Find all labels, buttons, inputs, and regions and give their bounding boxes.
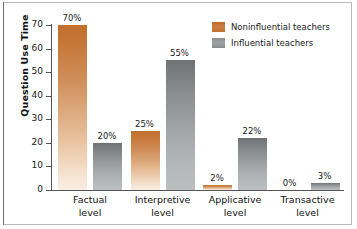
chart-figure: Question Use Time 010203040506070 70%20%… (0, 0, 357, 229)
legend-swatch-icon-influential (212, 38, 225, 48)
bar-value-label: 55% (160, 49, 200, 58)
x-tick-label-line: Transactive (265, 194, 351, 207)
x-tick-label: Transactivelevel (265, 194, 351, 219)
bar-orange[interactable] (203, 185, 232, 190)
bar-gray[interactable] (311, 183, 340, 190)
y-tick-mark (46, 49, 51, 50)
y-tick-mark (46, 72, 51, 73)
legend-swatch-icon-noninfluential (212, 22, 225, 32)
y-tick-label: 50 (21, 67, 43, 76)
bar-value-label: 22% (232, 127, 272, 136)
bar-value-label: 70% (52, 14, 92, 23)
y-tick-label: 30 (21, 114, 43, 123)
x-axis-line (51, 190, 344, 191)
bar-gray[interactable] (93, 143, 122, 190)
legend-label-noninfluential: Noninfluential teachers (231, 22, 330, 32)
bar-value-label: 20% (87, 132, 127, 141)
bar-group: 70%20% (52, 25, 128, 190)
legend-item-influential[interactable]: Influential teachers (212, 37, 330, 48)
chart-legend: Noninfluential teachers Influential teac… (212, 21, 330, 53)
bar-orange[interactable] (131, 131, 160, 190)
y-tick-label: 40 (21, 91, 43, 100)
bar-gray[interactable] (238, 138, 267, 190)
bar-value-label: 0% (270, 179, 310, 188)
y-tick-mark (46, 96, 51, 97)
bar-value-label: 3% (305, 172, 345, 181)
y-tick-label: 60 (21, 44, 43, 53)
legend-item-noninfluential[interactable]: Noninfluential teachers (212, 21, 330, 32)
figure-left-rule (3, 2, 4, 225)
y-tick-label: 0 (21, 185, 43, 194)
legend-label-influential: Influential teachers (231, 38, 313, 48)
bar-gray[interactable] (166, 60, 195, 190)
bar-value-label: 2% (197, 174, 237, 183)
bar-value-label: 25% (125, 120, 165, 129)
x-tick-label-line: level (265, 207, 351, 220)
y-tick-label: 70 (21, 20, 43, 29)
y-tick-mark (46, 190, 51, 191)
y-tick-mark (46, 143, 51, 144)
bar-orange[interactable] (58, 25, 87, 190)
y-tick-mark (46, 119, 51, 120)
y-tick-label: 10 (21, 161, 43, 170)
y-tick-label: 20 (21, 138, 43, 147)
bar-group: 25%55% (125, 25, 201, 190)
y-tick-mark (46, 25, 51, 26)
y-tick-mark (46, 166, 51, 167)
